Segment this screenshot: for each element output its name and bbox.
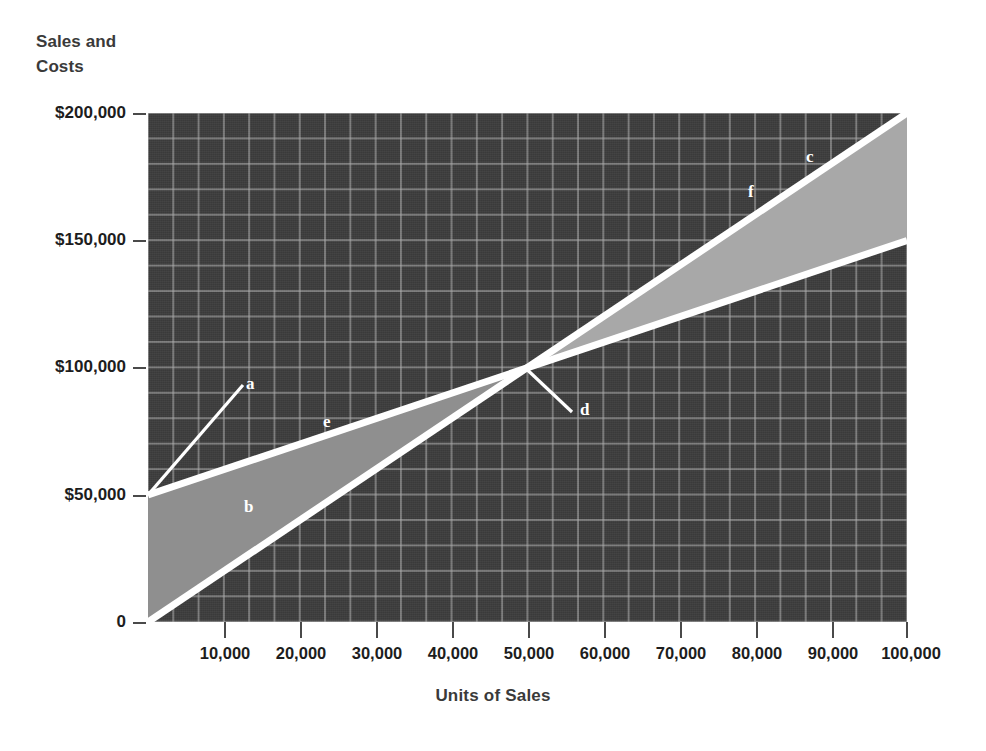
x-axis-tick-mark: [680, 622, 682, 638]
total-cost-line: [148, 241, 907, 496]
y-axis-tick-mark: [133, 495, 146, 497]
y-axis-tick-mark: [133, 240, 146, 242]
x-axis-tick-mark: [528, 622, 530, 638]
x-axis-tick-mark: [376, 622, 378, 638]
x-axis-tick-label: 30,000: [352, 644, 402, 663]
x-axis-tick-label: 10,000: [200, 644, 250, 663]
plot-graphics: [148, 113, 907, 622]
y-axis-tick-mark: [133, 113, 146, 115]
x-axis-tick-mark: [756, 622, 758, 638]
y-axis-tick-label: $200,000: [55, 103, 126, 123]
y-axis-tick-label: $50,000: [65, 485, 126, 505]
x-axis-tick-mark: [832, 622, 834, 638]
annotation-leader-d: [528, 370, 573, 412]
x-axis-tick-label: 80,000: [732, 644, 782, 663]
y-axis-tick-mark: [133, 622, 146, 624]
break-even-chart: Sales and Costs $200,000 $150,000 $100,0…: [0, 0, 986, 751]
x-axis-tick-label: 40,000: [428, 644, 478, 663]
x-axis-tick-mark: [452, 622, 454, 638]
x-axis-tick-mark: [300, 622, 302, 638]
x-axis-tick-label: 50,000: [504, 644, 554, 663]
x-axis-tick-label: 90,000: [808, 644, 858, 663]
x-axis-tick-label: 60,000: [580, 644, 630, 663]
y-axis-tick-label: $100,000: [55, 357, 126, 377]
x-axis-tick-mark: [604, 622, 606, 638]
y-axis-tick-group: $200,000 $150,000 $100,000 $50,000 0: [0, 0, 126, 751]
y-axis-tick-mark: [133, 367, 146, 369]
x-axis-tick-label: 20,000: [276, 644, 326, 663]
x-axis-tick-mark: [224, 622, 226, 638]
plot-area: a b c d e f: [148, 113, 907, 622]
x-axis-tick-label: 70,000: [656, 644, 706, 663]
x-axis-tick-mark: [906, 622, 908, 638]
x-axis-title: Units of Sales: [0, 686, 986, 706]
y-axis-tick-label: $150,000: [55, 230, 126, 250]
y-axis-tick-label: 0: [117, 612, 126, 632]
x-axis-tick-label: 100,000: [881, 644, 941, 663]
